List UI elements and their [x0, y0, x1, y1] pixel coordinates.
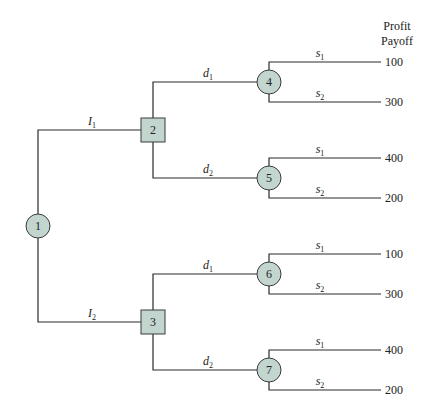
svg-text:s2: s2 — [316, 278, 325, 294]
node5-outcomes: s1 s2 — [269, 142, 381, 198]
chance-node-7: 7 — [257, 358, 281, 382]
svg-text:s1: s1 — [316, 142, 325, 158]
label-n2-d1: d1 — [203, 66, 213, 82]
svg-text:3: 3 — [150, 315, 156, 329]
svg-text:s2: s2 — [316, 86, 325, 102]
decision-node-2: 2 — [141, 118, 165, 142]
svg-text:4: 4 — [266, 75, 272, 89]
svg-text:7: 7 — [266, 363, 272, 377]
chance-node-6: 6 — [257, 262, 281, 286]
label-n3-d1: d1 — [203, 258, 213, 274]
svg-text:5: 5 — [266, 171, 272, 185]
payoff-5: 100 — [385, 247, 403, 261]
payoff-7: 400 — [385, 343, 403, 357]
chance-node-1: 1 — [26, 214, 50, 238]
svg-text:s1: s1 — [316, 334, 325, 350]
profit-header: Profit — [383, 19, 411, 33]
node4-outcomes: s1 s2 — [269, 46, 381, 102]
payoff-4: 200 — [385, 191, 403, 205]
decision-node-3: 3 — [141, 310, 165, 334]
chance-node-5: 5 — [257, 166, 281, 190]
label-n2-d2: d2 — [203, 162, 213, 178]
branch-n2-d1 — [153, 82, 257, 118]
svg-text:s1: s1 — [316, 46, 325, 62]
payoff-2: 300 — [385, 95, 403, 109]
node7-outcomes: s1 s2 — [269, 334, 381, 390]
payoff-1: 100 — [385, 55, 403, 69]
chance-node-4: 4 — [257, 70, 281, 94]
svg-text:s2: s2 — [316, 182, 325, 198]
branch-n3-d1 — [153, 274, 257, 310]
label-i1: I1 — [87, 114, 96, 130]
payoff-3: 400 — [385, 151, 403, 165]
payoff-6: 300 — [385, 287, 403, 301]
node6-outcomes: s1 s2 — [269, 238, 381, 294]
svg-text:2: 2 — [150, 123, 156, 137]
payoff-8: 200 — [385, 383, 403, 397]
svg-text:6: 6 — [266, 267, 272, 281]
svg-text:1: 1 — [35, 219, 41, 233]
label-i2: I2 — [87, 306, 96, 322]
branch-i1 — [38, 130, 141, 214]
svg-text:s1: s1 — [316, 238, 325, 254]
label-n3-d2: d2 — [203, 354, 213, 370]
decision-tree: Profit Payoff I1 I2 d1 d2 d1 d2 s1 s2 s1… — [0, 0, 430, 410]
svg-text:s2: s2 — [316, 374, 325, 390]
payoff-header: Payoff — [381, 34, 413, 48]
